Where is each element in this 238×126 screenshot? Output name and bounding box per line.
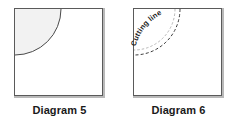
figure-caption-5: Diagram 5 <box>0 104 119 116</box>
figure-caption-6: Diagram 6 <box>119 104 238 116</box>
cutting-line-label-text: Cutting line <box>129 8 163 47</box>
square-container-5 <box>14 8 105 98</box>
quarter-arc-cutting-line: Cutting line <box>133 8 224 98</box>
square-container-6: Cutting line <box>133 8 224 98</box>
figure-diagram-5: Diagram 5 <box>0 0 119 126</box>
figure-diagram-6: Cutting line Diagram 6 <box>119 0 238 126</box>
quarter-circle-shaded-region <box>14 8 105 98</box>
cutting-line-label: Cutting line <box>129 8 163 47</box>
diagram-pair: Diagram 5 Cutting line Diagram 6 <box>0 0 238 126</box>
quarter-circle-fill <box>15 9 61 55</box>
